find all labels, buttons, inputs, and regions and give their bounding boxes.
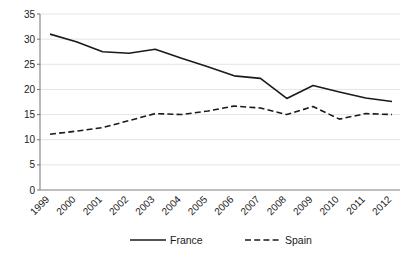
- y-axis-tick-labels: 05101520253035: [24, 9, 40, 196]
- y-tick-label-10: 10: [24, 134, 36, 145]
- chart-canvas: 05101520253035 1999200020012002200320042…: [0, 0, 417, 257]
- y-tick-label-0: 0: [29, 185, 35, 196]
- x-tick-label-2007: 2007: [238, 193, 262, 217]
- x-tick-label-2004: 2004: [159, 193, 183, 217]
- x-tick-label-2009: 2009: [291, 193, 315, 217]
- x-tick-label-2003: 2003: [133, 193, 157, 217]
- series-line-spain: [50, 106, 392, 134]
- series-line-france: [50, 34, 392, 101]
- y-tick-label-15: 15: [24, 109, 36, 120]
- x-tick-label-2008: 2008: [265, 193, 289, 217]
- line-chart: 05101520253035 1999200020012002200320042…: [0, 0, 417, 257]
- x-tick-label-2012: 2012: [370, 193, 394, 217]
- x-tick-label-2000: 2000: [54, 193, 78, 217]
- x-tick-label-2002: 2002: [107, 193, 131, 217]
- y-tick-label-35: 35: [24, 9, 36, 20]
- legend-label-spain: Spain: [285, 234, 312, 246]
- x-tick-label-2006: 2006: [212, 193, 236, 217]
- y-tick-label-5: 5: [29, 159, 35, 170]
- x-tick-label-2005: 2005: [186, 193, 210, 217]
- data-series: [50, 34, 392, 134]
- y-tick-label-20: 20: [24, 84, 36, 95]
- x-tick-label-1999: 1999: [28, 193, 52, 217]
- chart-legend: FranceSpain: [130, 234, 312, 246]
- y-tick-label-25: 25: [24, 59, 36, 70]
- x-axis-tick-labels: 1999200020012002200320042005200620072008…: [28, 193, 394, 217]
- axis-lines: [40, 14, 400, 190]
- x-tick-label-2010: 2010: [317, 193, 341, 217]
- gridlines: [40, 14, 400, 165]
- legend-label-france: France: [170, 234, 203, 246]
- x-tick-label-2001: 2001: [81, 193, 105, 217]
- y-tick-label-30: 30: [24, 34, 36, 45]
- x-tick-label-2011: 2011: [344, 193, 367, 216]
